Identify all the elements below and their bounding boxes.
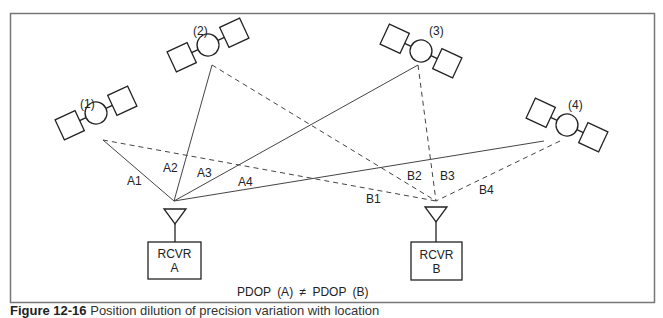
solar-panel-icon [433, 49, 462, 78]
satellite-4 [526, 98, 608, 152]
satellite-3-label: (3) [429, 24, 444, 38]
satellite-4-label: (4) [568, 98, 583, 112]
satellite-2 [167, 18, 249, 72]
receiver-b-id: B [432, 262, 440, 276]
figure-caption-text: Position dilution of precision variation… [90, 303, 379, 318]
receiver-b-name: RCVR [419, 248, 453, 262]
solar-panel-icon [579, 123, 608, 152]
figure-caption: Figure 12-16 Position dilution of precis… [10, 303, 379, 318]
receiver-a-id: A [170, 261, 178, 275]
antenna-icon [425, 207, 447, 222]
range-label-b1: B1 [366, 192, 381, 206]
figure-frame [11, 14, 655, 303]
solar-panel-icon [167, 43, 196, 72]
satellite-1 [55, 86, 137, 140]
range-label-b3: B3 [440, 169, 455, 183]
solar-panel-icon [220, 18, 249, 47]
range-label-a2: A2 [163, 161, 178, 175]
range-label-a4: A4 [238, 175, 253, 189]
range-label-a1: A1 [127, 174, 142, 188]
satellite-3 [380, 24, 462, 78]
range-label-b4: B4 [479, 183, 494, 197]
satellite-2-label: (2) [193, 24, 208, 38]
range-line-a3 [174, 65, 418, 201]
satellite-1-label: (1) [80, 97, 95, 111]
figure-number: Figure 12-16 [10, 303, 87, 318]
antenna-icon [164, 209, 186, 224]
solar-panel-icon [380, 24, 409, 53]
solar-panel-icon [55, 111, 84, 140]
pdop-equation: PDOP (A) ≠ PDOP (B) [237, 285, 369, 299]
solar-panel-icon [526, 98, 555, 127]
satellite-body-icon [406, 36, 435, 65]
range-line-b1 [103, 140, 436, 201]
range-line-a2 [174, 65, 212, 201]
range-label-a3: A3 [197, 166, 212, 180]
receiver-a-name: RCVR [157, 247, 191, 261]
solar-panel-icon [108, 86, 137, 115]
satellite-body-icon [552, 110, 581, 139]
range-label-b2: B2 [407, 169, 422, 183]
